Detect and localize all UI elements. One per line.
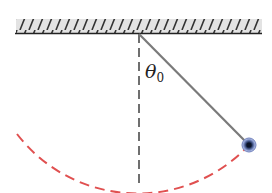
ceiling <box>15 19 262 34</box>
ceiling-hatching <box>16 19 262 33</box>
pendulum-diagram: θ0 <box>0 0 272 193</box>
pendulum-string <box>139 34 247 143</box>
pendulum-bob <box>242 138 256 152</box>
swing-arc <box>17 134 249 193</box>
angle-label: θ0 <box>145 60 164 85</box>
